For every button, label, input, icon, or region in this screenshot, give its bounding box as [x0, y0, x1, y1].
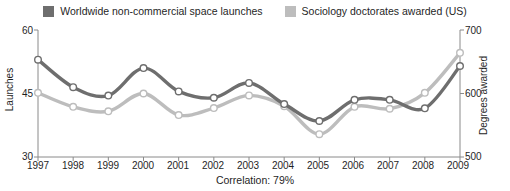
data-point-marker — [457, 63, 464, 70]
data-point-marker — [281, 101, 288, 108]
data-point-marker — [351, 97, 358, 104]
data-point-marker — [70, 84, 77, 91]
data-point-marker — [70, 104, 77, 111]
data-point-marker — [316, 131, 323, 138]
data-point-marker — [211, 94, 218, 101]
data-point-marker — [351, 104, 358, 111]
data-point-marker — [105, 92, 112, 99]
data-point-marker — [35, 56, 42, 63]
data-point-marker — [140, 65, 147, 72]
correlation-caption: Correlation: 79% — [0, 174, 510, 186]
data-point-marker — [35, 90, 42, 97]
data-point-marker — [386, 97, 393, 104]
data-point-marker — [386, 105, 393, 112]
data-point-marker — [105, 108, 112, 115]
data-point-marker — [422, 105, 429, 112]
dual-axis-line-chart: Worldwide non-commercial space launches … — [0, 0, 510, 191]
data-point-marker — [316, 118, 323, 125]
data-point-marker — [140, 90, 147, 97]
x-axis-tick-marks — [38, 157, 460, 161]
data-point-marker — [457, 50, 464, 57]
series-space-launches — [35, 56, 464, 124]
data-point-marker — [246, 92, 253, 99]
series-sociology-doctorates — [35, 50, 464, 138]
data-point-marker — [211, 105, 218, 112]
data-point-marker — [175, 112, 182, 119]
data-point-marker — [175, 88, 182, 95]
data-point-marker — [246, 80, 253, 87]
plot-area — [0, 0, 510, 191]
data-point-marker — [422, 90, 429, 97]
